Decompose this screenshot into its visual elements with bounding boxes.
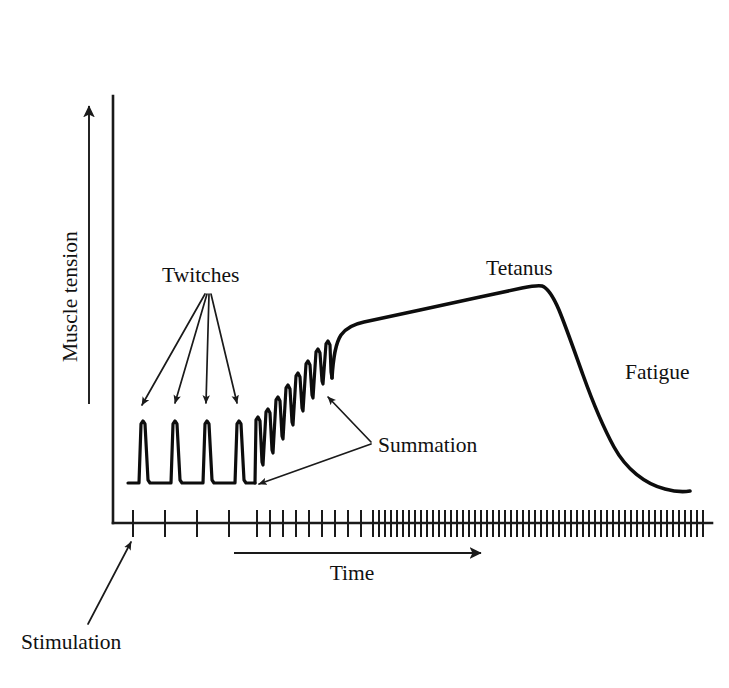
muscle-tension-diagram: Muscle tension Time	[0, 0, 729, 688]
twitches-arrow-3	[206, 294, 209, 403]
twitches-arrow-1	[142, 294, 205, 405]
twitches-arrow-2	[175, 294, 207, 403]
twitches-annotation: Twitches	[142, 263, 239, 405]
summation-label: Summation	[378, 433, 477, 457]
summation-arrow-lower	[259, 444, 371, 484]
y-axis-label: Muscle tension	[58, 231, 82, 362]
stimulation-annotation: Stimulation	[21, 542, 131, 654]
y-axis-label-group: Muscle tension	[58, 106, 89, 404]
twitches-arrow-4	[211, 294, 237, 403]
stimulation-arrow	[88, 542, 131, 624]
twitches-label: Twitches	[162, 263, 239, 287]
fatigue-label: Fatigue	[625, 360, 690, 384]
x-axis-label-group: Time	[234, 553, 481, 585]
tetanus-label: Tetanus	[486, 256, 553, 280]
x-axis-label: Time	[330, 561, 375, 585]
summation-arrow-upper	[328, 397, 371, 442]
diagram-canvas: Muscle tension Time	[0, 0, 729, 688]
trace-tetanus-fatigue-phase	[332, 286, 690, 492]
trace-twitches-phase	[128, 421, 255, 483]
stimulation-label: Stimulation	[21, 630, 122, 654]
